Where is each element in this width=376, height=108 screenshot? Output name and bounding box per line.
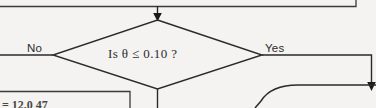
decision-question-text: Is θ ≤ 0.10 ? — [108, 47, 177, 60]
lower-right-rounded-shape-outline — [255, 85, 376, 108]
flowchart-canvas: No Yes Is θ ≤ 0.10 ? = 12.0 47 — [0, 0, 376, 108]
arrowhead-down-icon — [367, 82, 376, 91]
connector-top-to-decision — [153, 7, 162, 22]
top-box-outline — [0, 0, 356, 7]
branch-label-yes: Yes — [265, 43, 284, 55]
branch-label-no: No — [27, 43, 42, 55]
lower-left-box-text: = 12.0 47 — [2, 99, 48, 108]
flowchart-vector-layer — [0, 0, 376, 108]
